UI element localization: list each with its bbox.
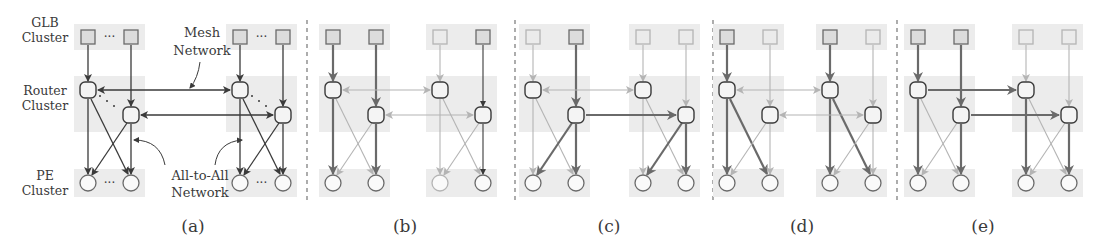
glb-node-1 xyxy=(1062,30,1076,44)
router-node-0 xyxy=(635,82,651,98)
router-node-1 xyxy=(678,107,694,123)
router-ellipsis-dot xyxy=(265,105,267,107)
router-ellipsis-dot xyxy=(258,100,260,102)
noc-diagram: GLBClusterRouterClusterPECluster········… xyxy=(0,0,1095,249)
pe-node-0 xyxy=(80,175,96,191)
glb-node-1 xyxy=(954,30,968,44)
glb-node-1 xyxy=(763,30,777,44)
router-node-0 xyxy=(822,82,838,98)
router-ellipsis-dot xyxy=(99,95,101,97)
router-node-1 xyxy=(568,107,584,123)
panel-caption-e: (e) xyxy=(971,216,994,236)
row-label-2: PE xyxy=(36,168,54,183)
row-label-2: Cluster xyxy=(22,183,68,198)
panel-b: (b) xyxy=(319,24,497,236)
all-to-all-pointer-left xyxy=(134,140,165,165)
pe-node-0 xyxy=(432,175,448,191)
all-to-all-pointer-right xyxy=(215,140,242,165)
glb-node-0 xyxy=(720,30,734,44)
glb-node-0 xyxy=(911,30,925,44)
glb-node-0 xyxy=(1019,30,1033,44)
glb-node-1 xyxy=(369,30,383,44)
pe-node-0 xyxy=(822,175,838,191)
router-node-0 xyxy=(719,82,735,98)
panel-e: (e) xyxy=(904,24,1083,236)
glb-node-0 xyxy=(636,30,650,44)
glb-node-1 xyxy=(124,30,138,44)
router-ellipsis-dot xyxy=(106,100,108,102)
panel-caption-a: (a) xyxy=(181,216,204,236)
all-to-all-network-label: Network xyxy=(171,185,228,200)
panel-a: ············MeshNetworkAll-to-AllNetwork… xyxy=(74,24,297,236)
pe-node-0 xyxy=(232,175,248,191)
router-node-0 xyxy=(232,82,248,98)
router-node-0 xyxy=(910,82,926,98)
row-label-0: GLB xyxy=(31,15,58,30)
glb-node-0 xyxy=(433,30,447,44)
mesh-network-label: Network xyxy=(173,43,230,58)
pe-node-1 xyxy=(678,175,694,191)
row-label-1: Router xyxy=(23,83,66,98)
glb-ellipsis: ··· xyxy=(104,30,115,44)
router-ellipsis-dot xyxy=(251,95,253,97)
all-to-all-network-label: All-to-All xyxy=(170,168,228,183)
router-node-1 xyxy=(275,107,291,123)
pe-node-1 xyxy=(123,175,139,191)
glb-node-1 xyxy=(866,30,880,44)
router-node-0 xyxy=(325,82,341,98)
glb-node-1 xyxy=(569,30,583,44)
pe-node-1 xyxy=(762,175,778,191)
pe-node-0 xyxy=(1018,175,1034,191)
pe-node-1 xyxy=(865,175,881,191)
glb-node-1 xyxy=(679,30,693,44)
row-label-0: Cluster xyxy=(22,30,68,45)
diagram-layer: GLBClusterRouterClusterPECluster········… xyxy=(22,15,1083,236)
pe-node-1 xyxy=(568,175,584,191)
pe-node-1 xyxy=(1061,175,1077,191)
panel-d: (d) xyxy=(713,24,887,236)
glb-node-0 xyxy=(823,30,837,44)
glb-node-1 xyxy=(476,30,490,44)
pe-node-1 xyxy=(368,175,384,191)
router-node-1 xyxy=(1061,107,1077,123)
panel-caption-d: (d) xyxy=(790,216,814,236)
panel-caption-b: (b) xyxy=(393,216,417,236)
router-node-0 xyxy=(525,82,541,98)
router-node-0 xyxy=(432,82,448,98)
router-node-0 xyxy=(1018,82,1034,98)
router-node-1 xyxy=(368,107,384,123)
row-label-1: Cluster xyxy=(22,98,68,113)
router-node-0 xyxy=(80,82,96,98)
mesh-pointer xyxy=(190,62,200,88)
pe-node-0 xyxy=(525,175,541,191)
router-node-1 xyxy=(953,107,969,123)
glb-node-0 xyxy=(81,30,95,44)
pe-node-0 xyxy=(635,175,651,191)
pe-node-1 xyxy=(953,175,969,191)
panel-c: (c) xyxy=(519,24,700,236)
pe-node-0 xyxy=(325,175,341,191)
panel-caption-c: (c) xyxy=(598,216,621,236)
router-node-1 xyxy=(475,107,491,123)
glb-node-0 xyxy=(526,30,540,44)
pe-node-0 xyxy=(719,175,735,191)
pe-ellipsis: ··· xyxy=(256,176,267,190)
pe-node-1 xyxy=(475,175,491,191)
router-node-1 xyxy=(865,107,881,123)
router-ellipsis-dot xyxy=(113,105,115,107)
pe-node-0 xyxy=(910,175,926,191)
router-node-1 xyxy=(123,107,139,123)
glb-node-1 xyxy=(276,30,290,44)
glb-ellipsis: ··· xyxy=(256,30,267,44)
mesh-network-label: Mesh xyxy=(184,25,221,40)
pe-node-1 xyxy=(275,175,291,191)
glb-node-0 xyxy=(233,30,247,44)
glb-node-0 xyxy=(326,30,340,44)
pe-ellipsis: ··· xyxy=(104,176,115,190)
router-node-1 xyxy=(762,107,778,123)
